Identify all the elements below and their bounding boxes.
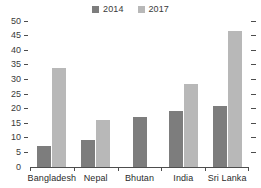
bar-sri-lanka-2014 [213,106,227,167]
chart-legend: 20142017 [0,2,261,16]
y-axis-tick-mark-50 [24,21,28,22]
y-axis-tick-mark-40 [24,50,28,51]
y-axis-tick-20: 20 [0,104,30,114]
x-axis-label-nepal: Nepal [84,173,108,184]
legend-entry-2014[interactable]: 2014 [92,5,123,14]
y-axis-right-tick-15 [249,118,259,128]
y-axis-tick-mark-20 [24,108,28,109]
y-axis-tick-label-35: 35 [11,60,21,69]
y-axis-tick-50: 50 [0,16,30,26]
y-axis-tick-35: 35 [0,60,30,70]
bar-india-2014 [169,111,183,167]
legend-swatch-icon-2014 [92,6,99,13]
y-axis-tick-mark-25 [24,94,28,95]
bars-layer [30,21,249,167]
bar-sri-lanka-2017 [228,31,242,167]
y-axis-right-tick-25 [249,89,259,99]
legend-entry-2017[interactable]: 2017 [138,5,169,14]
x-axis-label-sri-lanka: Sri Lanka [208,173,247,184]
y-axis-tick-label-20: 20 [11,104,21,113]
y-axis-right-tick-mark-10 [251,137,256,138]
y-axis-right-tick-40 [249,45,259,55]
y-axis-tick-30: 30 [0,74,30,84]
x-axis-label-bangladesh: Bangladesh [28,173,77,184]
bar-india-2017 [184,84,198,167]
y-axis-tick-mark-45 [24,35,28,36]
y-axis-tick-label-25: 25 [11,90,21,99]
bar-nepal-2014 [81,140,95,167]
y-axis-tick-mark-30 [24,79,28,80]
y-axis-tick-10: 10 [0,133,30,143]
y-axis-tick-label-0: 0 [16,163,21,172]
y-axis-tick-mark-35 [24,64,28,65]
y-axis-tick-label-50: 50 [11,17,21,26]
bar-nepal-2017 [96,120,110,167]
x-axis-tick-mark-2 [118,168,119,171]
y-axis-right-tick-mark-5 [251,152,256,153]
y-axis-tick-40: 40 [0,45,30,55]
x-axis-tick-mark-1 [74,168,75,171]
y-axis-right-tick-mark-20 [251,108,256,109]
bar-bangladesh-2014 [37,146,51,167]
y-axis-tick-45: 45 [0,31,30,41]
y-axis-tick-mark-10 [24,137,28,138]
y-axis-tick-0: 0 [0,162,30,172]
y-axis-tick-label-30: 30 [11,75,21,84]
legend-swatch-icon-2017 [138,6,145,13]
y-axis-right-tick-mark-45 [251,35,256,36]
y-axis-tick-label-45: 45 [11,31,21,40]
y-axis-right-tick-5 [249,147,259,157]
y-axis-right-tick-mark-30 [251,79,256,80]
y-axis-right-tick-mark-50 [251,21,256,22]
x-axis-label-india: India [173,173,193,184]
y-axis-tick-mark-5 [24,152,28,153]
bar-bhutan-2014 [133,117,147,167]
y-axis-right-tick-mark-25 [251,94,256,95]
y-axis-tick-15: 15 [0,118,30,128]
legend-label-2014: 2014 [103,5,123,14]
x-axis-label-bhutan: Bhutan [125,173,154,184]
y-axis-right-tick-35 [249,60,259,70]
y-axis-right-tick-20 [249,104,259,114]
x-axis-tick-mark-0 [30,168,31,171]
y-axis-tick-label-15: 15 [11,119,21,128]
y-axis-tick-label-40: 40 [11,46,21,55]
y-axis-tick-label-5: 5 [16,148,21,157]
y-axis-right-tick-50 [249,16,259,26]
y-axis-right-tick-10 [249,133,259,143]
y-axis-right-tick-mark-35 [251,64,256,65]
bar-chart: 20142017 05101520253035404550 Bangladesh… [0,0,261,188]
y-axis-tick-label-10: 10 [11,133,21,142]
y-axis-right-tick-30 [249,74,259,84]
y-axis-right-tick-45 [249,31,259,41]
y-axis-tick-25: 25 [0,89,30,99]
x-axis-labels: BangladeshNepalBhutanIndiaSri Lanka [30,173,249,186]
x-axis-tick-mark-3 [161,168,162,171]
bar-bangladesh-2017 [52,68,66,167]
x-axis-ticks [30,168,249,172]
x-axis-tick-mark-5 [248,168,249,171]
y-axis-right-tick-mark-15 [251,123,256,124]
y-axis-tick-spacer [24,167,28,168]
legend-label-2017: 2017 [149,5,169,14]
y-axis-tick-5: 5 [0,147,30,157]
x-axis-tick-mark-4 [205,168,206,171]
y-axis-tick-mark-15 [24,123,28,124]
y-axis-right-tick-mark-40 [251,50,256,51]
